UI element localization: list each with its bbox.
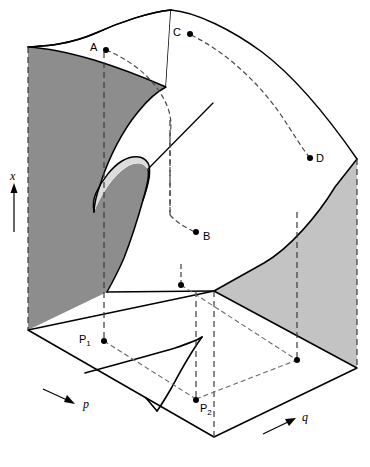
point-D-dot <box>307 155 313 161</box>
point-P2-dot <box>193 397 199 403</box>
axis-q-shaft <box>263 422 288 434</box>
point-label-P2: P2 <box>200 403 212 417</box>
point-Dproj-dot <box>294 357 300 363</box>
axis-p-arrowhead <box>64 395 75 404</box>
surface-front-left-edge <box>107 291 214 292</box>
axis-label-q: q <box>302 411 308 423</box>
point-B-dot <box>193 229 199 235</box>
axis-x-arrowhead <box>11 183 18 193</box>
axis-p-shaft <box>43 389 67 400</box>
point-Bproj-dot <box>178 282 184 288</box>
point-label-A: A <box>90 42 97 53</box>
point-label-C: C <box>173 27 181 38</box>
point-C-dot <box>187 31 193 37</box>
point-P1-dot <box>101 338 107 344</box>
point-A-dot <box>103 47 109 53</box>
axis-label-p: p <box>83 398 89 410</box>
axis-label-x: x <box>10 170 15 182</box>
point-label-P1-sub: 1 <box>86 339 90 348</box>
point-label-D: D <box>316 153 324 164</box>
cusp-catastrophe-figure <box>0 0 370 467</box>
point-label-P1: P1 <box>79 334 91 348</box>
point-label-B: B <box>203 231 210 242</box>
point-label-P2-sub: 2 <box>207 408 211 417</box>
